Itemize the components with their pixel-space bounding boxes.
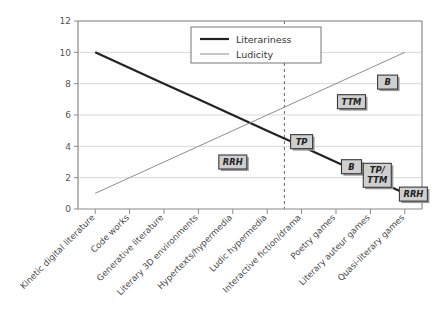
annotation-node-tp-ttm-literariness: TP/TTM (363, 163, 393, 189)
y-tick-label-4: 4 (65, 142, 71, 152)
annotation-node-b-ludicity: B (378, 75, 400, 91)
chart-container: 024681012 RRHTPTTMBBTP/TTMRRH Literarine… (0, 0, 441, 329)
node-label: TTM (367, 175, 388, 185)
annotation-node-rrh-literariness: RRH (399, 187, 429, 203)
y-tick-label-2: 2 (65, 173, 71, 183)
legend: LiterarinessLudicity (191, 27, 321, 63)
annotation-node-ttm-ludicity: TTM (337, 95, 367, 111)
node-label: TP/ (370, 165, 386, 175)
y-tick-label-6: 6 (65, 110, 71, 120)
annotation-node-b-literariness: B (341, 160, 363, 176)
legend-label-1: Ludicity (236, 49, 273, 60)
y-tick-label-0: 0 (65, 204, 71, 214)
node-label: TP (296, 137, 309, 147)
y-tick-label-12: 12 (60, 16, 71, 26)
node-label: RRH (223, 157, 243, 167)
node-label: B (348, 162, 354, 172)
y-tick-label-10: 10 (60, 48, 72, 58)
legend-label-0: Literariness (236, 34, 292, 45)
node-label: TTM (342, 97, 363, 107)
annotation-node-tp-crossing: TP (291, 135, 315, 151)
literariness-ludicity-line-chart: 024681012 RRHTPTTMBBTP/TTMRRH Literarine… (0, 0, 441, 329)
node-label: B (384, 77, 390, 87)
node-label: RRH (403, 189, 423, 199)
annotation-node-rrh-ludicity: RRH (219, 155, 249, 171)
y-tick-label-8: 8 (65, 79, 71, 89)
